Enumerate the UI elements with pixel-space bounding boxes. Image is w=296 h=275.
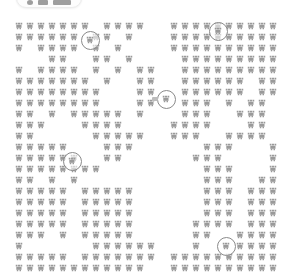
tree-marker-icon[interactable] <box>16 122 23 129</box>
tree-marker-icon[interactable] <box>182 100 189 107</box>
tree-marker-icon[interactable] <box>93 111 100 118</box>
tree-marker-icon[interactable] <box>171 133 178 140</box>
tree-marker-icon[interactable] <box>49 144 56 151</box>
tree-marker-icon[interactable] <box>248 23 255 30</box>
tree-marker-icon[interactable] <box>49 155 56 162</box>
tree-marker-icon[interactable] <box>115 23 122 30</box>
tree-marker-icon[interactable] <box>215 210 222 217</box>
tree-marker-icon[interactable] <box>16 34 23 41</box>
tree-marker-icon[interactable] <box>193 232 200 239</box>
tree-marker-icon[interactable] <box>60 78 67 85</box>
tree-marker-icon[interactable] <box>71 177 78 184</box>
tree-marker-icon[interactable] <box>193 122 200 129</box>
tree-marker-icon[interactable] <box>204 144 211 151</box>
tree-marker-icon[interactable] <box>82 23 89 30</box>
tree-marker-icon[interactable] <box>115 122 122 129</box>
tree-marker-icon[interactable] <box>193 221 200 228</box>
tree-marker-icon[interactable] <box>226 78 233 85</box>
tree-marker-icon[interactable] <box>226 188 233 195</box>
tree-marker-icon[interactable] <box>93 221 100 228</box>
tree-marker-icon[interactable] <box>115 67 122 74</box>
tree-marker-icon[interactable] <box>49 78 56 85</box>
tree-marker-icon[interactable] <box>204 254 211 261</box>
tree-marker-icon[interactable] <box>193 56 200 63</box>
tree-marker-icon[interactable] <box>237 23 244 30</box>
tree-marker-icon[interactable] <box>115 254 122 261</box>
tree-marker-icon[interactable] <box>270 34 277 41</box>
tree-marker-icon[interactable] <box>104 78 111 85</box>
tree-marker-icon[interactable] <box>115 232 122 239</box>
tree-marker-icon[interactable] <box>248 232 255 239</box>
tree-marker-icon[interactable] <box>182 122 189 129</box>
tree-marker-icon[interactable] <box>93 232 100 239</box>
tree-marker-icon[interactable] <box>148 243 155 250</box>
tree-marker-icon[interactable] <box>27 133 34 140</box>
tree-marker-icon[interactable] <box>171 45 178 52</box>
tree-marker-icon[interactable] <box>71 23 78 30</box>
tree-marker-icon[interactable] <box>259 89 266 96</box>
tree-marker-icon[interactable] <box>27 177 34 184</box>
tree-marker-icon[interactable] <box>270 144 277 151</box>
tree-marker-icon[interactable] <box>248 67 255 74</box>
tree-marker-icon[interactable] <box>204 166 211 173</box>
tree-marker-icon[interactable] <box>226 133 233 140</box>
tree-marker-icon[interactable] <box>204 45 211 52</box>
tree-marker-icon[interactable] <box>71 78 78 85</box>
tree-marker-icon[interactable] <box>259 199 266 206</box>
tree-marker-icon[interactable] <box>148 89 155 96</box>
tree-marker-icon[interactable] <box>215 166 222 173</box>
tree-marker-icon[interactable] <box>93 254 100 261</box>
tree-marker-icon[interactable] <box>126 144 133 151</box>
tree-marker-icon[interactable] <box>226 89 233 96</box>
tree-marker-icon[interactable] <box>270 210 277 217</box>
tree-marker-icon[interactable] <box>27 221 34 228</box>
tree-marker-icon[interactable] <box>237 67 244 74</box>
tree-marker-icon[interactable] <box>71 100 78 107</box>
tree-marker-icon[interactable] <box>126 243 133 250</box>
tree-marker-icon[interactable] <box>215 265 222 272</box>
highlight-marker-4[interactable] <box>63 152 82 171</box>
tree-marker-icon[interactable] <box>270 23 277 30</box>
tree-marker-icon[interactable] <box>182 56 189 63</box>
tree-marker-icon[interactable] <box>193 34 200 41</box>
tree-marker-icon[interactable] <box>204 100 211 107</box>
tree-marker-icon[interactable] <box>93 89 100 96</box>
tree-marker-icon[interactable] <box>60 188 67 195</box>
tree-marker-icon[interactable] <box>115 199 122 206</box>
tree-marker-icon[interactable] <box>27 254 34 261</box>
tree-marker-icon[interactable] <box>16 232 23 239</box>
tree-marker-icon[interactable] <box>38 144 45 151</box>
tree-marker-icon[interactable] <box>193 254 200 261</box>
tree-marker-icon[interactable] <box>237 232 244 239</box>
tree-marker-icon[interactable] <box>60 23 67 30</box>
tree-marker-icon[interactable] <box>16 188 23 195</box>
tree-marker-icon[interactable] <box>215 199 222 206</box>
tree-marker-icon[interactable] <box>93 100 100 107</box>
tree-marker-icon[interactable] <box>93 166 100 173</box>
tree-marker-icon[interactable] <box>259 265 266 272</box>
tree-marker-icon[interactable] <box>82 265 89 272</box>
tree-marker-icon[interactable] <box>60 210 67 217</box>
tree-marker-icon[interactable] <box>237 89 244 96</box>
tree-marker-icon[interactable] <box>71 45 78 52</box>
tree-marker-icon[interactable] <box>204 111 211 118</box>
tree-marker-icon[interactable] <box>248 243 255 250</box>
tree-marker-icon[interactable] <box>215 155 222 162</box>
tree-marker-icon[interactable] <box>60 56 67 63</box>
tree-marker-icon[interactable] <box>259 67 266 74</box>
tree-marker-icon[interactable] <box>259 122 266 129</box>
tree-marker-icon[interactable] <box>237 243 244 250</box>
tree-marker-icon[interactable] <box>215 177 222 184</box>
tree-marker-icon[interactable] <box>38 155 45 162</box>
tree-marker-icon[interactable] <box>237 133 244 140</box>
tree-marker-icon[interactable] <box>38 100 45 107</box>
tree-marker-icon[interactable] <box>115 221 122 228</box>
tree-marker-icon[interactable] <box>82 111 89 118</box>
tree-marker-icon[interactable] <box>38 166 45 173</box>
tree-marker-icon[interactable] <box>270 243 277 250</box>
tree-marker-icon[interactable] <box>27 232 34 239</box>
tree-marker-icon[interactable] <box>182 133 189 140</box>
tree-marker-icon[interactable] <box>38 89 45 96</box>
highlight-marker-3[interactable] <box>157 90 176 109</box>
tree-marker-icon[interactable] <box>82 221 89 228</box>
